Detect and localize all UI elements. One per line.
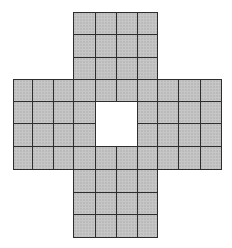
grid-cell <box>200 101 222 124</box>
grid-cell <box>95 79 117 102</box>
grid-cell <box>137 57 158 80</box>
grid-cell <box>157 101 179 124</box>
grid-cell <box>73 123 96 147</box>
grid-cell <box>95 57 117 80</box>
grid-cell <box>53 79 74 102</box>
grid-cell <box>95 214 117 238</box>
grid-cell <box>116 34 138 58</box>
grid-cell <box>73 214 96 238</box>
cross-grid-board <box>0 0 232 248</box>
grid-cell <box>116 146 138 170</box>
grid-cell <box>32 79 54 102</box>
grid-cell <box>157 146 179 170</box>
grid-cell <box>137 214 158 238</box>
grid-cell <box>13 79 33 102</box>
grid-cell <box>73 146 96 170</box>
grid-cell <box>13 101 33 124</box>
grid-cell <box>200 146 222 170</box>
grid-cell <box>53 146 74 170</box>
grid-cell <box>116 214 138 238</box>
grid-cell <box>73 57 96 80</box>
grid-cell <box>73 192 96 215</box>
grid-cell <box>200 79 222 102</box>
grid-cell <box>200 123 222 147</box>
grid-cell <box>73 79 96 102</box>
grid-cell <box>73 101 96 124</box>
grid-cell <box>13 123 33 147</box>
grid-cell <box>157 79 179 102</box>
grid-cell <box>13 146 33 170</box>
grid-cell <box>116 57 138 80</box>
grid-cell <box>95 12 117 35</box>
grid-cell <box>95 34 117 58</box>
grid-cell <box>137 34 158 58</box>
grid-cell <box>137 169 158 193</box>
grid-cell <box>137 12 158 35</box>
grid-cell <box>32 146 54 170</box>
grid-cell <box>178 146 201 170</box>
grid-cell <box>73 34 96 58</box>
grid-cell <box>137 79 158 102</box>
grid-cell <box>116 79 138 102</box>
grid-cell <box>116 192 138 215</box>
grid-cell <box>73 12 96 35</box>
grid-cell <box>157 123 179 147</box>
grid-cell <box>116 12 138 35</box>
grid-cell <box>53 123 74 147</box>
grid-cell <box>178 101 201 124</box>
grid-cell <box>137 192 158 215</box>
grid-cell <box>178 79 201 102</box>
grid-cell <box>53 101 74 124</box>
grid-cell <box>178 123 201 147</box>
grid-cell <box>95 192 117 215</box>
grid-cell <box>116 169 138 193</box>
grid-cell <box>137 146 158 170</box>
grid-cell <box>32 123 54 147</box>
grid-cell <box>95 146 117 170</box>
grid-cell <box>137 101 158 124</box>
grid-cell <box>73 169 96 193</box>
grid-cell <box>32 101 54 124</box>
grid-cell <box>137 123 158 147</box>
grid-cell <box>95 169 117 193</box>
